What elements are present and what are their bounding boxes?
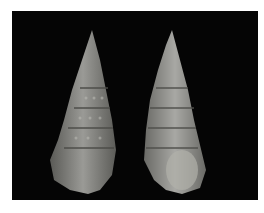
left-shell <box>50 30 120 195</box>
photo-panel <box>12 11 258 200</box>
right-shell <box>140 30 210 195</box>
